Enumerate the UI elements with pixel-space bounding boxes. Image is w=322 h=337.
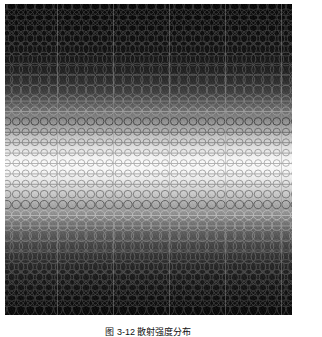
lattice-intensity-map (5, 4, 292, 315)
plot-panel (5, 4, 292, 315)
figure-root: 图 3-12 散射强度分布 (0, 0, 322, 337)
figure-caption: 图 3-12 散射强度分布 (5, 327, 292, 337)
